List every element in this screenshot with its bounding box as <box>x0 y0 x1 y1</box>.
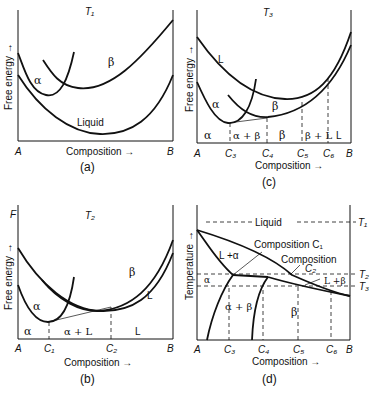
label-liquid: Liquid <box>77 117 104 128</box>
region-beta-liquid: β + L <box>305 130 333 141</box>
region-alpha-beta: α + β <box>233 130 260 141</box>
x-axis-label: Composition → <box>64 357 132 368</box>
region-liquid: Liquid <box>255 217 282 228</box>
region-beta: β <box>291 306 297 319</box>
label-beta: β <box>108 56 114 69</box>
temperature-label: T₁ <box>85 6 94 17</box>
region-liquid: L <box>336 130 342 141</box>
region-l-alpha: L +α <box>219 250 239 261</box>
curve-beta <box>228 45 351 117</box>
curve-beta <box>42 240 173 311</box>
x-left-label: A <box>193 148 201 159</box>
region-alpha-liquid: α + L <box>64 326 92 337</box>
tick-label-c3: C₃ <box>225 148 236 159</box>
curve-liquid <box>18 248 173 311</box>
x-right-label: B <box>167 343 174 354</box>
temperature-label: T₂ <box>85 210 95 221</box>
region-alpha-beta: α + β <box>225 301 252 312</box>
y-axis-label: Free energy → <box>3 243 14 310</box>
y-axis-label: Free energy → <box>184 45 195 112</box>
region-alpha: α <box>204 129 212 142</box>
label-beta: β <box>272 100 278 113</box>
curve-beta <box>43 20 173 88</box>
y-axis-top-label: F <box>10 209 17 220</box>
caption: (d) <box>262 372 277 386</box>
label-alpha: α <box>34 74 42 87</box>
common-tangent <box>48 307 111 322</box>
tick-label-c6: C₆ <box>326 344 337 355</box>
x-axis-label: Composition → <box>255 160 323 171</box>
region-liquid: L <box>135 326 141 337</box>
common-tangent <box>228 118 267 123</box>
panel-a: T₁ α β Liquid A B Composition → Free ene… <box>3 6 174 174</box>
t1-label: T₁ <box>358 217 367 228</box>
panel-b: F T₂ β L α α α + L L A C₁ C₂ B Compositi… <box>3 205 174 386</box>
x-axis-label: Composition → <box>252 356 320 367</box>
solvus-beta <box>252 277 268 340</box>
phase-diagram-figure: T₁ α β Liquid A B Composition → Free ene… <box>0 0 371 394</box>
y-axis-label: Temperature → <box>184 231 195 300</box>
tick-label-c5: C₅ <box>293 344 304 355</box>
label-beta: β <box>129 266 135 279</box>
region-alpha: α <box>204 275 210 285</box>
x-right-label: B <box>167 146 174 157</box>
tick-label-c1: C₁ <box>44 343 54 354</box>
region-l-beta: L +β <box>324 276 346 286</box>
caption: (c) <box>262 175 276 189</box>
y-axis-label: Free energy → <box>3 43 14 110</box>
tick-label-c5: C₅ <box>297 148 308 159</box>
label-liquid: L <box>147 290 153 301</box>
panel-c: T₃ L α β α α + β β β + L L A C₃ C₄ C₅ C₆… <box>184 7 353 189</box>
tick-label-c6: C₆ <box>323 148 334 159</box>
t2-label: T₂ <box>359 269 369 280</box>
x-right-label: B <box>346 148 353 159</box>
x-axis-label: Composition → <box>66 146 134 157</box>
invariant-line <box>233 275 268 277</box>
curve-alpha <box>18 52 74 95</box>
tick-label-c4: C₄ <box>262 148 273 159</box>
label-liquid: L <box>218 54 224 65</box>
tick-label-c4: C₄ <box>258 344 269 355</box>
label-alpha: α <box>212 98 220 111</box>
region-beta: β <box>279 129 285 142</box>
leader-c2 <box>290 265 300 275</box>
curve-alpha <box>197 79 256 123</box>
t3-label: T₃ <box>359 281 369 292</box>
tick-label-c2: C₂ <box>106 343 117 354</box>
caption: (a) <box>80 160 95 174</box>
label-alpha: α <box>33 300 41 313</box>
annotation-c2: C₂ <box>305 263 316 274</box>
x-left-label: A <box>193 344 201 355</box>
x-left-label: A <box>14 343 22 354</box>
region-alpha: α <box>24 325 32 338</box>
caption: (b) <box>80 372 95 386</box>
x-left-label: A <box>14 146 22 157</box>
panel-d: Liquid T₁ T₂ T₃ L +α α α + β β L +β Comp… <box>184 205 369 386</box>
tick-label-c3: C₃ <box>224 344 235 355</box>
annotation-composition-c1: Composition C₁ <box>254 239 324 250</box>
temperature-label: T₃ <box>263 7 273 18</box>
x-right-label: B <box>346 344 353 355</box>
